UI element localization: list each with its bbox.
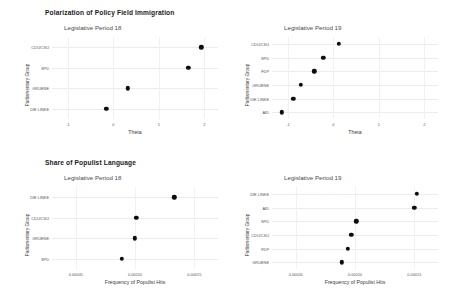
- gridline-horizontal: [272, 58, 438, 59]
- data-point: [340, 260, 344, 264]
- y-axis-tick-label: DIE LINKE: [250, 96, 269, 101]
- x-axis-tick-label: -1: [66, 122, 69, 127]
- data-point: [280, 110, 284, 114]
- data-point: [312, 69, 316, 73]
- data-point: [337, 42, 341, 46]
- y-axis-tick-label: CDU/CSU: [251, 232, 269, 237]
- x-axis-tick-label: 0: [112, 122, 114, 127]
- x-axis-label: Theta: [128, 129, 141, 135]
- data-point: [199, 45, 203, 49]
- figure-polarization: Polarization of Policy Field Immigration…: [0, 0, 450, 149]
- x-axis-tick-label: 2: [423, 122, 425, 127]
- plot-area: DIE LINKEAfDSPDCDU/CSUFDPGRUENE0.000050.…: [272, 187, 438, 269]
- panel-subtitle: Legislative Period 18: [64, 174, 121, 181]
- gridline-horizontal: [52, 88, 218, 89]
- panel-lp19: Legislative Period 19 Parliamentary Grou…: [228, 174, 444, 296]
- gridline-vertical: [159, 37, 160, 119]
- gridline-horizontal: [272, 71, 438, 72]
- x-axis-tick-label: 0.00005: [69, 272, 83, 277]
- data-point: [298, 83, 302, 87]
- data-point: [133, 236, 137, 240]
- x-axis-tick-label: 0.00005: [289, 272, 303, 277]
- data-point: [321, 55, 325, 59]
- gridline-vertical: [135, 187, 136, 269]
- y-axis-tick-label: FDP: [261, 69, 269, 74]
- gridline-horizontal: [52, 68, 218, 69]
- data-point: [120, 257, 124, 261]
- gridline-vertical: [355, 187, 356, 269]
- x-axis-tick-label: 1: [378, 122, 380, 127]
- panel-lp18: Legislative Period 18 Parliamentary Grou…: [8, 174, 224, 296]
- gridline-vertical: [204, 37, 205, 119]
- data-point: [172, 195, 176, 199]
- gridline-vertical: [288, 37, 289, 119]
- y-axis-tick-label: SPD: [261, 55, 269, 60]
- data-point: [349, 233, 353, 237]
- gridline-vertical: [424, 37, 425, 119]
- panel-subtitle: Legislative Period 18: [64, 24, 121, 31]
- panel-subtitle: Legislative Period 19: [284, 174, 341, 181]
- plot-area: CDU/CSUSPDFDPGRUENEDIE LINKEAfD-1012Thet…: [272, 37, 438, 119]
- y-axis-tick-label: GRUENE: [252, 82, 269, 87]
- gridline-horizontal: [272, 112, 438, 113]
- gridline-vertical: [333, 37, 334, 119]
- gridline-horizontal: [52, 47, 218, 48]
- figure-sheet: Polarization of Policy Field Immigration…: [0, 0, 450, 299]
- x-axis-label: Theta: [348, 129, 361, 135]
- plot-area: DIE LINKECDU/CSUGRUENESPD0.000050.000100…: [52, 187, 218, 269]
- y-axis-tick-label: CDU/CSU: [31, 45, 49, 50]
- figure-populist-language: Share of Populist Language Legislative P…: [0, 150, 450, 299]
- y-axis-tick-label: SPD: [41, 65, 49, 70]
- x-axis-tick-label: -1: [286, 122, 289, 127]
- gridline-vertical: [379, 37, 380, 119]
- panel-lp18: Legislative Period 18 Parliamentary Grou…: [8, 24, 224, 146]
- gridline-vertical: [113, 37, 114, 119]
- x-axis-label: Frequency of Populist Hits: [105, 279, 166, 285]
- gridline-vertical: [414, 187, 415, 269]
- y-axis-tick-label: SPD: [41, 256, 49, 261]
- x-axis-tick-label: 0.00015: [187, 272, 201, 277]
- gridline-vertical: [296, 187, 297, 269]
- y-axis-tick-label: GRUENE: [32, 86, 49, 91]
- y-axis-tick-label: GRUENE: [252, 260, 269, 265]
- gridline-vertical: [194, 187, 195, 269]
- data-point: [346, 246, 350, 250]
- x-axis-label: Frequency of Populist Hits: [325, 279, 386, 285]
- y-axis-tick-label: AfD: [263, 205, 270, 210]
- y-axis-tick-label: CDU/CSU: [251, 41, 269, 46]
- y-axis-tick-label: DIE LINKE: [30, 195, 49, 200]
- gridline-horizontal: [272, 85, 438, 86]
- y-axis-tick-label: GRUENE: [32, 236, 49, 241]
- data-point: [134, 216, 138, 220]
- y-axis-tick-label: DIE LINKE: [30, 106, 49, 111]
- x-axis-tick-label: 0.00010: [128, 272, 142, 277]
- y-axis-tick-label: CDU/CSU: [31, 215, 49, 220]
- gridline-horizontal: [272, 44, 438, 45]
- gridline-vertical: [76, 187, 77, 269]
- gridline-horizontal: [272, 99, 438, 100]
- panel-lp19: Legislative Period 19 Parliamentary Grou…: [228, 24, 444, 146]
- y-axis-tick-label: DIE LINKE: [250, 191, 269, 196]
- y-axis-label: Parliamentary Group: [245, 214, 250, 256]
- x-axis-tick-label: 0: [332, 122, 334, 127]
- figure-title: Share of Populist Language: [45, 159, 136, 166]
- data-point: [354, 219, 358, 223]
- y-axis-label: Parliamentary Group: [25, 214, 30, 256]
- y-axis-tick-label: SPD: [261, 219, 269, 224]
- y-axis-label: Parliamentary Group: [245, 64, 250, 106]
- x-axis-tick-label: 1: [158, 122, 160, 127]
- data-point: [414, 192, 418, 196]
- data-point: [186, 66, 190, 70]
- y-axis-tick-label: AfD: [263, 110, 270, 115]
- gridline-vertical: [68, 37, 69, 119]
- x-axis-tick-label: 2: [203, 122, 205, 127]
- gridline-horizontal: [52, 109, 218, 110]
- figure-title: Polarization of Policy Field Immigration: [45, 9, 174, 16]
- data-point: [412, 205, 416, 209]
- x-axis-tick-label: 0.00015: [407, 272, 421, 277]
- data-point: [126, 86, 130, 90]
- y-axis-tick-label: FDP: [261, 246, 269, 251]
- y-axis-label: Parliamentary Group: [25, 64, 30, 106]
- data-point: [291, 96, 295, 100]
- x-axis-tick-label: 0.00010: [348, 272, 362, 277]
